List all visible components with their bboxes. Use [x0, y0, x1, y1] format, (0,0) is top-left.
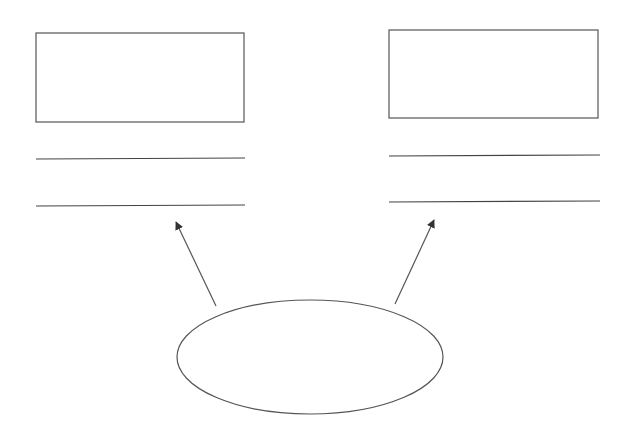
left-class-node[interactable]: [36, 33, 245, 206]
diagram-canvas: [0, 0, 626, 432]
left-class-separator-1: [36, 158, 245, 159]
left-class-separator-2: [36, 205, 245, 206]
left-class-box[interactable]: [36, 33, 244, 122]
source-ellipse-node[interactable]: [177, 300, 443, 414]
arrow-to-left-class: [176, 222, 216, 306]
arrow-to-right-class: [395, 220, 434, 304]
right-class-separator-2: [389, 201, 600, 202]
right-class-node[interactable]: [389, 30, 600, 202]
right-class-box[interactable]: [389, 30, 598, 118]
right-class-separator-1: [389, 155, 600, 156]
